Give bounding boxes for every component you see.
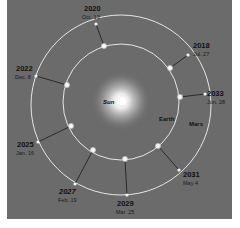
svg-text:2025: 2025	[17, 140, 34, 149]
svg-text:2027: 2027	[58, 187, 77, 196]
svg-text:Oct. 13: Oct. 13	[82, 14, 100, 20]
svg-text:2029: 2029	[117, 199, 134, 208]
svg-text:May 4: May 4	[183, 180, 198, 186]
orbit-diagram: Sun Earth Mars 2020 Oct. 13 2018 Jul. 27…	[0, 0, 240, 228]
svg-text:2022: 2022	[16, 64, 33, 73]
svg-text:Jan. 16: Jan. 16	[16, 150, 34, 156]
earth-label: Earth	[159, 116, 175, 122]
svg-text:Jun. 28: Jun. 28	[207, 99, 225, 105]
svg-text:Jul. 27: Jul. 27	[193, 51, 209, 57]
sun-icon	[118, 97, 126, 105]
opposition-2022: 2022 Dec. 8	[15, 64, 33, 80]
sun-label: Sun	[103, 99, 115, 105]
opposition-2033: 2033 Jun. 28	[207, 89, 225, 105]
opposition-2020: 2020 Oct. 13	[82, 4, 101, 20]
svg-text:Feb. 19: Feb. 19	[58, 197, 77, 203]
svg-text:2018: 2018	[193, 41, 210, 50]
mars-label: Mars	[189, 121, 204, 127]
svg-text:Mar. 25: Mar. 25	[116, 209, 134, 215]
opposition-2027: 2027 Feb. 19	[58, 187, 77, 203]
svg-text:2031: 2031	[183, 170, 200, 179]
opposition-2031: 2031 May 4	[183, 170, 200, 186]
svg-text:2020: 2020	[84, 4, 101, 13]
svg-text:2033: 2033	[207, 89, 224, 98]
opposition-2029: 2029 Mar. 25	[116, 199, 134, 215]
svg-text:Dec. 8: Dec. 8	[15, 74, 31, 80]
opposition-2018: 2018 Jul. 27	[193, 41, 210, 57]
opposition-2025: 2025 Jan. 16	[16, 140, 34, 156]
